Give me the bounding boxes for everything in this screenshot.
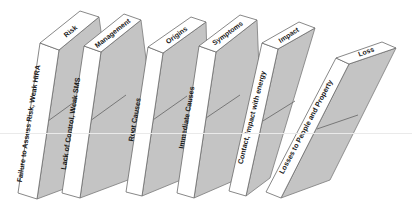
domino-diagram: Risk Failure to Assess Risk, Weak HIRA M… (0, 0, 412, 206)
